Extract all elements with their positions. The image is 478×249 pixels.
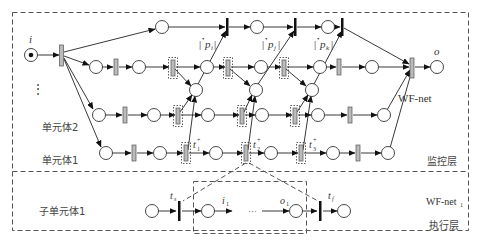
svg-text:p: p: [267, 38, 274, 50]
label-o: o: [434, 45, 440, 57]
svg-text:1: 1: [226, 201, 229, 207]
token: [29, 53, 34, 58]
preset-label-pk: | • p k |: [314, 35, 333, 52]
label-unit1: 单元体1: [42, 155, 78, 166]
label-ts: t s: [170, 190, 177, 202]
svg-text:|: |: [214, 38, 216, 50]
svg-text:p: p: [204, 38, 211, 50]
place-i1: [202, 205, 215, 218]
svg-text:j: j: [273, 44, 276, 52]
svg-text:2: 2: [257, 146, 260, 152]
preset-label-pi: | • p i |: [199, 35, 216, 52]
svg-text:s: s: [174, 196, 177, 202]
label-t3: t + 3: [309, 137, 317, 152]
label-t2: t + 2: [253, 137, 261, 152]
label-i1: i 1: [222, 195, 229, 207]
label-wf-net: WF-net: [398, 92, 432, 104]
svg-text:t: t: [309, 139, 312, 150]
svg-text:WF-net: WF-net: [426, 196, 457, 207]
place-o1: [290, 205, 303, 218]
place-o: [431, 61, 444, 74]
svg-text:+: +: [197, 137, 201, 143]
label-subunit1: 子单元体1: [39, 206, 85, 217]
svg-text:|: |: [199, 38, 201, 50]
ellipsis-vertical: ⋮: [32, 82, 44, 96]
svg-text:t: t: [170, 190, 173, 201]
svg-text:k: k: [326, 44, 330, 52]
preset-label-pj: | • p j |: [262, 35, 280, 52]
svg-text:+: +: [257, 137, 261, 143]
svg-text:|: |: [331, 38, 333, 50]
transition-t3: [299, 145, 303, 161]
svg-text:|: |: [278, 38, 280, 50]
svg-text:1: 1: [197, 146, 200, 152]
svg-text:o: o: [280, 195, 285, 206]
start-transition: [60, 45, 64, 66]
transitions: [60, 45, 415, 161]
label-monitoring-layer: 监控层: [427, 155, 457, 167]
svg-text:p: p: [319, 38, 326, 50]
label-execution-layer: 执行层: [429, 219, 459, 231]
svg-text:|: |: [262, 38, 264, 50]
label-unit2: 单元体2: [42, 122, 78, 133]
subnet-ellipsis: ···: [248, 206, 257, 216]
places: [25, 21, 444, 218]
transition-t1: [184, 145, 188, 161]
label-i: i: [29, 33, 32, 45]
svg-text:|: |: [314, 38, 316, 50]
label-o1: o 1: [280, 195, 289, 207]
join-transition: [410, 58, 414, 78]
svg-text:t: t: [328, 190, 331, 201]
svg-text:t: t: [193, 139, 196, 150]
label-t1: t + 1: [193, 137, 201, 152]
svg-text:f: f: [332, 196, 335, 202]
svg-text:i: i: [222, 195, 225, 206]
svg-text:1: 1: [460, 202, 463, 208]
svg-text:t: t: [253, 139, 256, 150]
transition-t2: [244, 145, 248, 161]
svg-text:i: i: [211, 44, 213, 52]
svg-text:+: +: [313, 137, 317, 143]
label-wf-net1: WF-net 1: [426, 196, 463, 208]
ts-transition: [178, 201, 181, 221]
svg-text:3: 3: [313, 146, 316, 152]
label-tf: t f: [328, 190, 335, 202]
petri-net-diagram: i o ⋮ | • p i | | • p j | | • p k | t + …: [0, 0, 478, 249]
tf-transition: [319, 201, 322, 221]
svg-text:1: 1: [286, 201, 289, 207]
